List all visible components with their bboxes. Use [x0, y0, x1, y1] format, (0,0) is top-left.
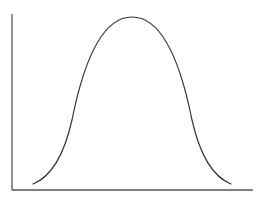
bell-curve-path: [33, 17, 231, 184]
diagram-canvas: [0, 0, 259, 198]
bell-curve-diagram: [0, 0, 259, 198]
